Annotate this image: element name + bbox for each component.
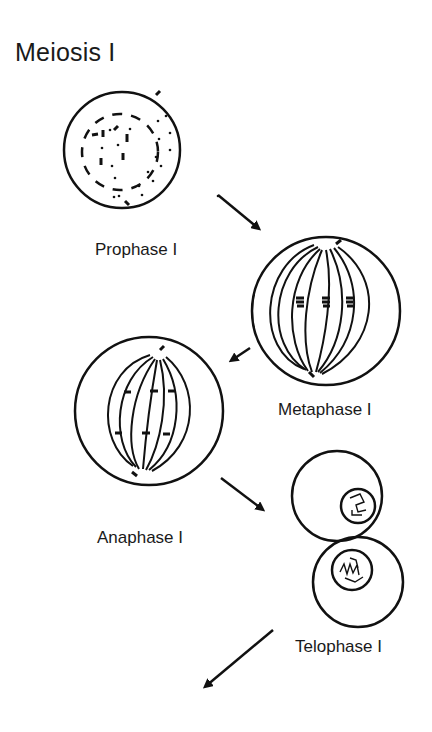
arrow-to-metaphase (218, 195, 258, 228)
anaphase-cell (75, 337, 223, 485)
anaphase-label: Anaphase I (97, 528, 183, 548)
prophase-cell (64, 91, 219, 208)
meiosis-diagram (0, 0, 432, 732)
telophase-cells (292, 451, 403, 627)
arrow-to-anaphase (232, 348, 250, 360)
prophase-label: Prophase I (95, 240, 177, 260)
metaphase-cell (252, 237, 400, 385)
arrow-to-telophase (221, 478, 262, 509)
arrow-to-meiosis-ii (206, 630, 273, 686)
metaphase-label: Metaphase I (278, 400, 372, 420)
telophase-label: Telophase I (295, 637, 382, 657)
